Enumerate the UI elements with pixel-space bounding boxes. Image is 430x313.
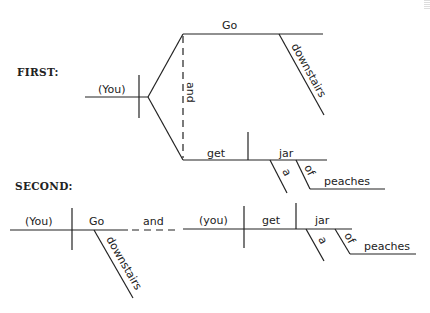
predicate-2-verb: get xyxy=(207,147,226,160)
conjunction-text: and xyxy=(184,82,197,103)
first-diagram: (You) and Go downstairs get jar a of pea… xyxy=(85,19,385,193)
clause-2-object: jar xyxy=(314,214,330,227)
clause-1-modifier: downstairs xyxy=(103,234,144,292)
subject-text: (You) xyxy=(98,83,126,96)
article-text: a xyxy=(279,166,294,178)
second-diagram: (You) Go downstairs and (you) get jar a … xyxy=(10,203,416,298)
clause-2-article-line xyxy=(306,229,324,261)
predicate-1-verb: Go xyxy=(222,19,238,32)
clause-1-verb: Go xyxy=(89,215,105,228)
conjunction-text-2: and xyxy=(143,215,164,228)
clause-2-verb: get xyxy=(262,214,281,227)
fork-lower-branch xyxy=(148,97,183,160)
clause-1-subject: (You) xyxy=(25,215,53,228)
clause-2-subject: (you) xyxy=(199,214,228,227)
clause-2-prep-object: peaches xyxy=(364,240,410,253)
fork-upper-branch xyxy=(148,34,183,97)
predicate-2-object: jar xyxy=(278,147,294,160)
clause-2-article: a xyxy=(315,234,330,246)
prep-object-text: peaches xyxy=(324,175,370,188)
sentence-diagrams: (You) and Go downstairs get jar a of pea… xyxy=(0,0,430,313)
predicate-1-modifier: downstairs xyxy=(288,41,328,100)
